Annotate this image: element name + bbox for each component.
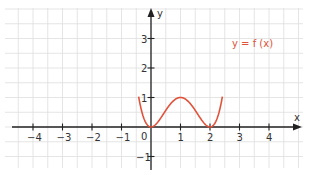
y-tick-label: −1 (136, 152, 151, 163)
x-tick-label: 1 (178, 132, 184, 143)
x-tick-label: 4 (266, 132, 272, 143)
function-graph: −4−3−2−11234−1123 x y 0 y = f (x) (0, 0, 310, 175)
y-tick-label: 2 (141, 63, 147, 74)
x-axis-arrow-icon (293, 124, 302, 131)
x-tick-label: −1 (116, 132, 131, 143)
x-tick-label: 2 (207, 132, 213, 143)
x-tick-label: 3 (237, 132, 243, 143)
x-tick-label: −3 (57, 132, 72, 143)
x-tick-label: −4 (27, 132, 42, 143)
axes (12, 8, 302, 170)
y-tick-label: 1 (141, 93, 147, 104)
function-label: y = f (x) (232, 38, 273, 49)
x-axis-label: x (294, 112, 300, 123)
y-tick-label: 3 (141, 34, 147, 45)
grid-lines (5, 8, 303, 168)
x-tick-label: −2 (86, 132, 101, 143)
origin-label: 0 (141, 131, 147, 142)
y-axis-label: y (157, 8, 163, 19)
